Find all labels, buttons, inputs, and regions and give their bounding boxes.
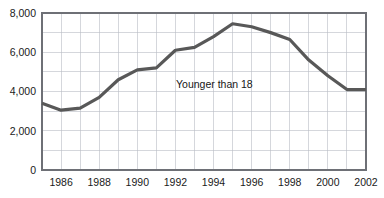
y-tick-label: 2,000 — [10, 125, 36, 137]
x-tick-label: 1988 — [87, 176, 111, 188]
y-tick-label: 8,000 — [10, 7, 36, 19]
x-tick-label: 1992 — [164, 176, 188, 188]
x-tick-label: 1990 — [126, 176, 150, 188]
series-annotation-label: Younger than 18 — [176, 78, 253, 90]
x-tick-label: 2000 — [316, 176, 340, 188]
y-tick-label: 0 — [30, 164, 36, 176]
x-tick-label: 1986 — [49, 176, 73, 188]
chart-background — [0, 0, 384, 198]
y-tick-label: 4,000 — [10, 85, 36, 97]
x-tick-label: 1994 — [202, 176, 226, 188]
x-axis-tick-labels: 198619881990199219941996199820002002 — [49, 176, 377, 188]
y-tick-label: 6,000 — [10, 46, 36, 58]
x-tick-label: 1996 — [240, 176, 264, 188]
x-tick-label: 1998 — [278, 176, 302, 188]
chart-canvas: 02,0004,0006,0008,000 198619881990199219… — [0, 0, 384, 198]
line-chart: 02,0004,0006,0008,000 198619881990199219… — [0, 0, 384, 198]
x-tick-label: 2002 — [354, 176, 378, 188]
